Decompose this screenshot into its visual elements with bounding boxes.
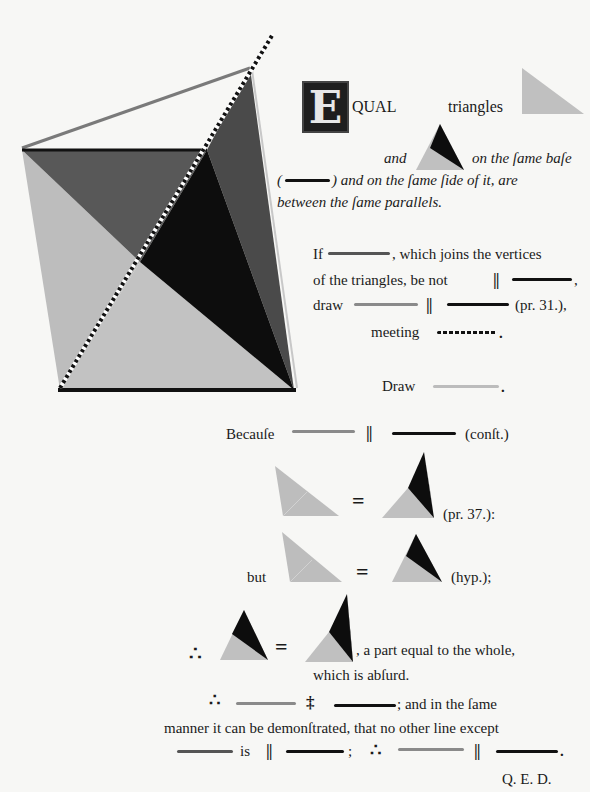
proof-eq-ref2: (hyp.); bbox=[451, 568, 491, 586]
triangle-icon-black-light bbox=[390, 532, 444, 584]
triangle-icon-black-light bbox=[414, 122, 466, 174]
proof-concl3-end: . bbox=[560, 742, 564, 760]
proof-line2: of the triangles, be not bbox=[313, 271, 448, 289]
main-diagram bbox=[0, 0, 310, 400]
proof-absurd2: which is abſurd. bbox=[313, 666, 409, 684]
proof-but: but bbox=[247, 568, 266, 586]
parallel-symbol: || bbox=[366, 424, 372, 442]
equals-symbol: = bbox=[356, 563, 369, 581]
proof-meeting-end: . bbox=[499, 324, 503, 342]
black-line-icon bbox=[447, 303, 509, 306]
qed: Q. E. D. bbox=[502, 770, 552, 788]
enunciation-line2-tail: on the ſame baſe bbox=[472, 149, 572, 167]
dark-line-icon bbox=[328, 252, 390, 255]
equals-symbol: = bbox=[275, 638, 288, 656]
black-line-icon bbox=[512, 278, 572, 281]
triangle-icon-light bbox=[520, 66, 590, 118]
therefore-symbol: ∴ bbox=[209, 691, 220, 709]
therefore-symbol: ∴ bbox=[370, 741, 381, 759]
triangle-icon-light-split bbox=[280, 530, 344, 586]
dotted-line-icon bbox=[437, 331, 497, 334]
mid-line-icon bbox=[292, 430, 355, 433]
black-line-icon bbox=[334, 704, 396, 707]
enunciation-line3-tail: ) and on the ſame ſide of it, are bbox=[332, 171, 518, 189]
parallel-symbol: || bbox=[493, 271, 499, 289]
proof-concl3-is: is bbox=[240, 742, 250, 760]
black-line-icon bbox=[392, 432, 456, 435]
black-line-icon bbox=[496, 750, 558, 753]
enunciation-line4: between the ſame parallels. bbox=[277, 193, 442, 211]
dropcap: E bbox=[302, 81, 349, 133]
enunciation-word1: QUAL bbox=[352, 98, 396, 116]
triangle-icon-light-split bbox=[273, 464, 343, 520]
black-line-icon bbox=[286, 750, 344, 753]
black-line-icon bbox=[285, 179, 330, 182]
triangle-icon-black-light bbox=[218, 608, 270, 662]
proof-if: If bbox=[313, 245, 323, 263]
not-parallel-symbol: ‡ bbox=[306, 694, 314, 712]
light-line-icon bbox=[433, 385, 499, 388]
parallel-symbol: || bbox=[266, 742, 272, 760]
proof-draw2-end: . bbox=[501, 378, 505, 396]
therefore-symbol: ∴ bbox=[189, 644, 202, 662]
equals-symbol: = bbox=[352, 492, 365, 510]
proof-concl3-semicolon: ; bbox=[348, 742, 352, 760]
mid-line-icon bbox=[236, 702, 296, 705]
proof-draw-ref: (pr. 31.), bbox=[515, 296, 567, 314]
dark-line-icon bbox=[177, 750, 233, 753]
proof-if-tail: , which joins the vertices bbox=[392, 245, 542, 263]
proof-absurd1: , a part equal to the whole, bbox=[356, 641, 515, 659]
proof-eq-ref1: (pr. 37.): bbox=[443, 505, 495, 523]
enunciation-line3-open: ( bbox=[277, 171, 282, 189]
enunciation-and: and bbox=[384, 149, 407, 167]
proof-draw: draw bbox=[313, 296, 343, 314]
parallel-symbol: || bbox=[474, 742, 480, 760]
proof-line2-end: , bbox=[574, 271, 578, 289]
triangle-icon-tall-composite bbox=[380, 450, 436, 520]
triangle-icon-tall-composite bbox=[303, 592, 357, 664]
mid-line-icon bbox=[354, 303, 418, 306]
enunciation-word2: triangles bbox=[448, 98, 503, 116]
proof-meeting: meeting bbox=[371, 323, 419, 341]
mid-line-icon bbox=[398, 748, 464, 751]
proof-concl1-tail: ; and in the ſame bbox=[397, 695, 497, 713]
proof-draw2: Draw bbox=[382, 377, 415, 395]
parallel-symbol: || bbox=[426, 296, 432, 314]
proof-concl2: manner it can be demonſtrated, that no o… bbox=[164, 719, 499, 737]
proof-because-ref: (conſt.) bbox=[465, 425, 509, 443]
proof-because: Becauſe bbox=[226, 425, 274, 443]
